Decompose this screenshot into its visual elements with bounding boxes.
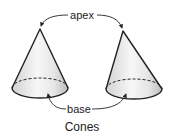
left-cone	[12, 29, 68, 98]
diagram-title: Cones	[65, 120, 100, 134]
apex-label: apex	[70, 9, 94, 21]
base-label: base	[67, 103, 91, 115]
apex-arrow-right	[97, 15, 122, 28]
cones-diagram: apex base Cones	[0, 0, 174, 137]
right-cone	[106, 31, 162, 99]
apex-arrow-left	[41, 15, 68, 26]
